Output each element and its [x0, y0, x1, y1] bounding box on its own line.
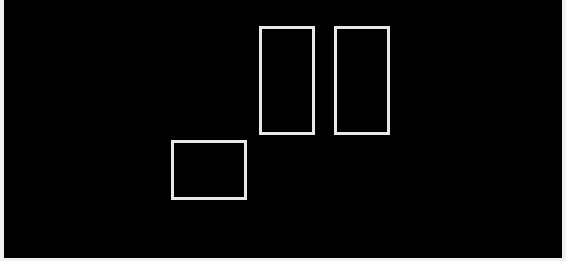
- black-canvas: [4, 0, 562, 258]
- rectangle-outline-lower-left: [171, 140, 247, 200]
- rectangle-outline-tall-left: [259, 26, 315, 135]
- rectangle-outline-tall-right: [334, 26, 390, 135]
